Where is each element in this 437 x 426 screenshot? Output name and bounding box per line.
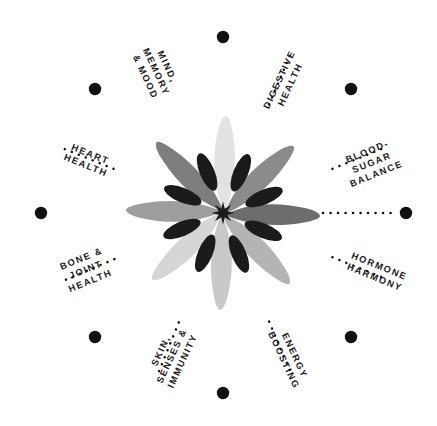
endpoint-dot-energy-boosting[interactable] <box>217 387 229 399</box>
endpoint-dot-hormone-harmony[interactable] <box>345 331 357 343</box>
flower-petal <box>126 201 219 222</box>
center-star-shape <box>212 202 235 225</box>
endpoint-dot-heart-health[interactable] <box>89 83 101 95</box>
endpoint-dot-mind-memory-mood[interactable] <box>217 31 229 43</box>
flower-petal <box>211 217 232 310</box>
endpoint-dot-bone-joint-health[interactable] <box>35 207 47 219</box>
flower-petal <box>227 204 320 225</box>
flower-center-star <box>212 202 235 225</box>
radial-health-diagram: MIND,MEMORY& MOODDIGESTIVEHEALTHBLOOD-SU… <box>0 0 437 426</box>
flower-petal <box>214 116 235 209</box>
eight-petal-flower-icon <box>118 108 328 318</box>
endpoint-dot-skin-senses-immunity[interactable] <box>89 331 101 343</box>
endpoint-dot-blood-sugar-balance[interactable] <box>400 207 412 219</box>
endpoint-dot-digestive-health[interactable] <box>345 83 357 95</box>
